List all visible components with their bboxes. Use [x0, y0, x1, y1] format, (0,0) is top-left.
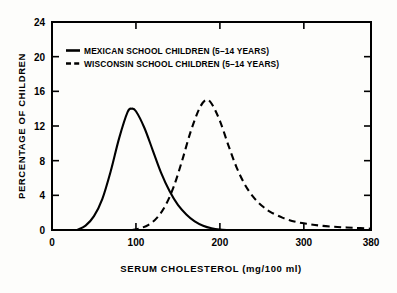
x-axis-tick-labels: 0100200300380 [49, 237, 380, 248]
y-tick-label-16: 16 [34, 86, 46, 97]
x-tick-label-300: 300 [295, 237, 312, 248]
x-axis-title: SERUM CHOLESTEROL (mg/100 ml) [120, 263, 301, 274]
x-tick-label-100: 100 [128, 237, 145, 248]
y-tick-label-0: 0 [39, 225, 45, 236]
y-tick-label-24: 24 [34, 17, 46, 28]
figure-container: 0100200300380 04812162024 MEXICAN SCHOOL… [0, 0, 397, 293]
cholesterol-distribution-chart: 0100200300380 04812162024 MEXICAN SCHOOL… [0, 0, 397, 293]
y-tick-label-4: 4 [39, 190, 45, 201]
x-tick-label-0: 0 [49, 237, 55, 248]
series-line-wisconsin [132, 100, 371, 230]
x-tick-label-380: 380 [363, 237, 380, 248]
y-axis-title: PERCENTAGE OF CHILDREN [16, 53, 27, 199]
legend: MEXICAN SCHOOL CHILDREN (5–14 YEARS) WIS… [66, 46, 279, 69]
x-tick-label-200: 200 [212, 237, 229, 248]
y-tick-label-12: 12 [34, 121, 46, 132]
legend-label-wisconsin: WISCONSIN SCHOOL CHILDREN (5–14 YEARS) [84, 59, 279, 69]
y-tick-label-20: 20 [34, 52, 46, 63]
legend-label-mexican: MEXICAN SCHOOL CHILDREN (5–14 YEARS) [84, 46, 269, 56]
series-line-mexican [77, 109, 228, 230]
y-tick-label-8: 8 [39, 156, 45, 167]
y-axis-tick-labels: 04812162024 [34, 17, 46, 236]
